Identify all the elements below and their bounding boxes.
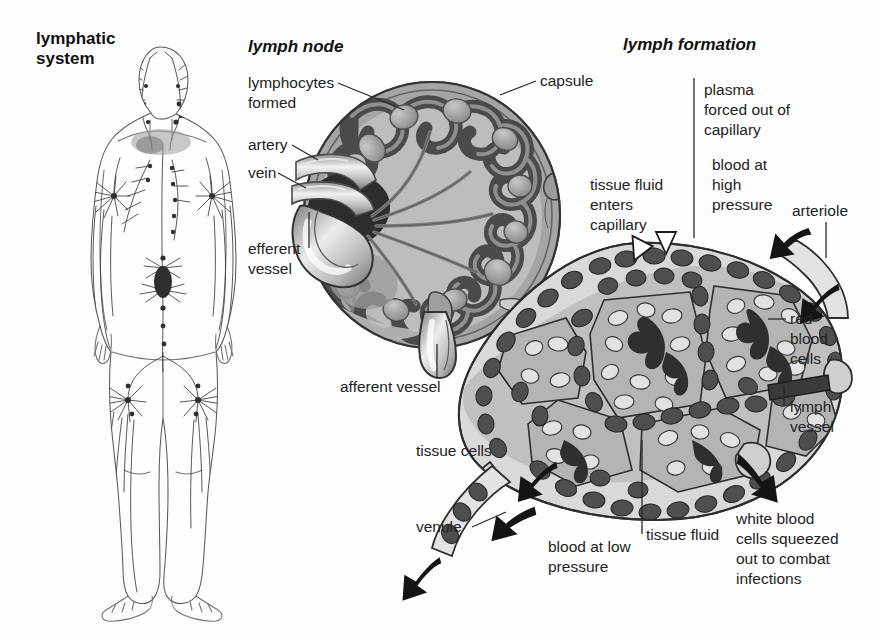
label-blood-high-line3: pressure	[712, 196, 772, 213]
lymph-node-title: lymph node	[248, 37, 343, 56]
lymphatic-system-title-line1: lymphatic	[36, 29, 115, 48]
label-efferent-vessel-line2: vessel	[248, 260, 292, 277]
label-efferent-vessel-line1: efferent	[248, 240, 301, 257]
label-plasma-line3: capillary	[704, 121, 761, 138]
label-wbc-line2: cells squeezed	[736, 530, 839, 547]
label-blood-low-line2: pressure	[548, 558, 608, 575]
label-vein: vein	[248, 164, 276, 181]
label-blood-low-line1: blood at low	[548, 538, 632, 555]
lymph-formation-title: lymph formation	[623, 35, 756, 54]
label-wbc-line3: out to combat	[736, 550, 831, 567]
label-tissue-fluid: tissue fluid	[646, 526, 719, 543]
label-blood-high-line1: blood at	[712, 156, 768, 173]
label-blood-high-line2: high	[712, 176, 741, 193]
lymphatic-system-title-line2: system	[36, 49, 95, 68]
label-artery: artery	[248, 136, 288, 153]
label-lymphocytes-formed-line1: lymphocytes	[248, 74, 334, 91]
label-venule: venule	[416, 518, 462, 535]
label-rbc-line2: blood	[790, 330, 828, 347]
label-tissue-fluid-enters-line3: capillary	[590, 216, 647, 233]
label-tissue-fluid-enters-line1: tissue fluid	[590, 176, 663, 193]
label-wbc-line4: infections	[736, 570, 802, 587]
label-arteriole: arteriole	[792, 202, 848, 219]
label-rbc-line1: red	[790, 310, 812, 327]
label-rbc-line3: cells	[790, 350, 821, 367]
label-plasma-line2: forced out of	[704, 101, 791, 118]
figure-canvas: lymphatic system	[0, 0, 875, 637]
label-plasma-line1: plasma	[704, 81, 754, 98]
label-wbc-line1: white blood	[735, 510, 814, 527]
label-tissue-fluid-enters-line2: enters	[590, 196, 633, 213]
label-afferent-vessel: afferent vessel	[340, 378, 441, 395]
label-lymph-vessel-line1: lymph	[790, 398, 831, 415]
label-capsule: capsule	[540, 72, 593, 89]
label-lymphocytes-formed-line2: formed	[248, 94, 296, 111]
label-tissue-cells: tissue cells	[416, 442, 492, 459]
label-lymph-vessel-line2: vessel	[790, 418, 834, 435]
